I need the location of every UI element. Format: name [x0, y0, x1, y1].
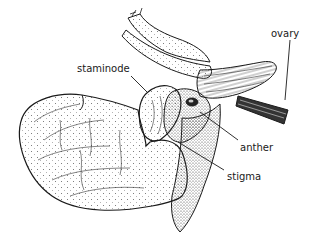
- orchid-diagram: ovary staminode anther stigma: [0, 0, 311, 240]
- label-anther: anther: [240, 142, 274, 153]
- ovary: [236, 96, 288, 124]
- upper-sepal: [122, 8, 212, 78]
- staminode-leader-line: [131, 76, 147, 92]
- ovary-leader-line: [285, 40, 290, 100]
- label-stigma: stigma: [227, 171, 261, 182]
- label-staminode: staminode: [77, 63, 130, 74]
- label-ovary: ovary: [271, 28, 299, 39]
